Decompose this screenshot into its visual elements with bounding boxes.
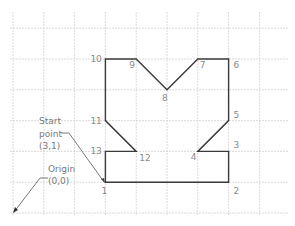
vertex-label-11: 11 [90, 116, 101, 126]
annotations: Start point (3,1) Origin (0,0) [13, 116, 105, 213]
vertex-label-6: 6 [234, 60, 240, 70]
vertex-labels: 12345678910111213 [90, 54, 239, 196]
start-point-label-line-1: Start [39, 116, 61, 126]
vertex-label-8: 8 [162, 93, 168, 103]
vertex-label-5: 5 [234, 110, 240, 120]
vertex-label-12: 12 [139, 153, 150, 163]
vertex-label-9: 9 [129, 60, 135, 70]
vertex-label-2: 2 [234, 186, 240, 196]
vertex-label-10: 10 [90, 54, 102, 64]
start-point-label-line-3: (3,1) [39, 141, 60, 151]
vertex-label-1: 1 [101, 186, 107, 196]
vertex-label-13: 13 [90, 146, 101, 156]
vertex-label-7: 7 [200, 60, 206, 70]
origin-label-line-1: Origin [48, 164, 75, 174]
origin-leader-line [14, 178, 48, 212]
diagram-canvas: 12345678910111213 Start point (3,1) Orig… [0, 0, 295, 226]
diagram-svg: 12345678910111213 Start point (3,1) Orig… [0, 0, 295, 226]
vertex-label-4: 4 [191, 152, 197, 162]
start-point-label-line-2: point [39, 129, 62, 139]
origin-label-line-2: (0,0) [48, 176, 69, 186]
start-point-leader-line [61, 133, 104, 182]
vertex-label-3: 3 [234, 140, 240, 150]
